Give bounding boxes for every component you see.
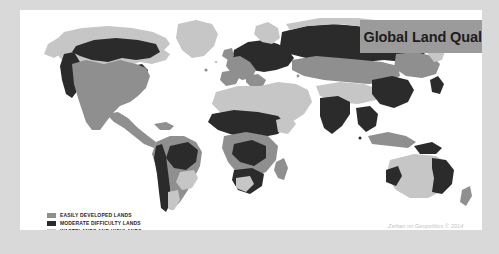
map-legend: EASILY DEVELOPED LANDS MODERATE DIFFICUL… bbox=[47, 212, 142, 230]
attribution-text: Zeihan on Geopolitics © 2014 bbox=[388, 223, 463, 229]
legend-item-wastelands-highlands: WASTELANDS AND HIGHLANDS bbox=[47, 228, 142, 230]
legend-label-moderate-difficulty: MODERATE DIFFICULTY LANDS bbox=[60, 220, 141, 227]
legend-swatch-wastelands-highlands bbox=[47, 229, 56, 230]
page-title: Global Land Quality bbox=[363, 29, 482, 45]
title-banner: Global Land Quality bbox=[360, 20, 482, 53]
infographic-page: Global Land Quality EASILY DEVELOPED LAN… bbox=[0, 0, 499, 254]
legend-label-wastelands-highlands: WASTELANDS AND HIGHLANDS bbox=[60, 228, 142, 230]
map-panel: Global Land Quality EASILY DEVELOPED LAN… bbox=[20, 10, 482, 230]
legend-swatch-moderate-difficulty bbox=[47, 221, 56, 226]
legend-label-easily-developed: EASILY DEVELOPED LANDS bbox=[60, 212, 132, 219]
legend-swatch-easily-developed bbox=[47, 213, 56, 218]
legend-item-easily-developed: EASILY DEVELOPED LANDS bbox=[47, 212, 142, 219]
legend-item-moderate-difficulty: MODERATE DIFFICULTY LANDS bbox=[47, 220, 142, 227]
